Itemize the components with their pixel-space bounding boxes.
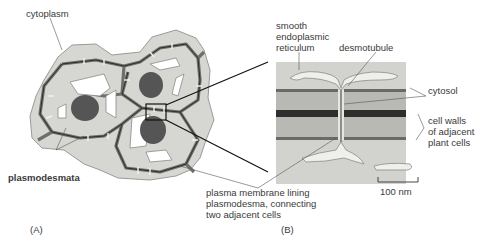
label-desmotubule: desmotubule (339, 42, 393, 53)
label-cytoplasm: cytoplasm (26, 8, 69, 19)
label-plasma-membrane-1: plasma membrane lining (206, 187, 310, 198)
panel-label-b: (B) (281, 224, 294, 235)
label-cell-walls-3: plant cells (428, 137, 470, 148)
label-cytosol: cytosol (428, 85, 458, 96)
label-cell-walls-2: of adjacent (428, 126, 474, 137)
label-plasma-membrane-3: two adjacent cells (206, 209, 281, 220)
panel-b-detail (276, 62, 412, 184)
label-cell-walls-1: cell walls (428, 115, 466, 126)
label-ser-1: smooth (276, 20, 307, 31)
label-plasmodesmata: plasmodesmata (8, 172, 80, 183)
panel-label-a: (A) (30, 224, 43, 235)
label-ser-3: reticulum (276, 42, 315, 53)
scale-bar-label: 100 nm (380, 186, 412, 197)
label-ser-2: endoplasmic (276, 31, 329, 42)
panel-a-tissue (30, 30, 214, 180)
label-plasma-membrane-2: plasmodesma, connecting (206, 198, 316, 209)
